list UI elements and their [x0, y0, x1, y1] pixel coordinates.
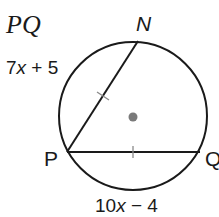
variable: x	[17, 57, 27, 78]
point-label-q: Q	[205, 148, 219, 169]
chord-pn-length-label: 7x + 5	[6, 58, 58, 77]
chord-pq-length-label: 10x − 4	[95, 196, 158, 215]
constant-term: − 4	[126, 195, 158, 216]
chord-pn	[67, 41, 138, 152]
tick-mark-pn	[97, 92, 109, 100]
coefficient: 10	[95, 195, 116, 216]
problem-title: PQ	[6, 12, 41, 38]
constant-term: + 5	[26, 57, 58, 78]
point-label-n: N	[136, 13, 151, 34]
center-dot	[129, 113, 138, 122]
coefficient: 7	[6, 57, 17, 78]
variable: x	[116, 195, 126, 216]
diagram: PQ 7x + 5 10x − 4 N P Q	[0, 0, 219, 217]
point-label-p: P	[44, 148, 58, 169]
